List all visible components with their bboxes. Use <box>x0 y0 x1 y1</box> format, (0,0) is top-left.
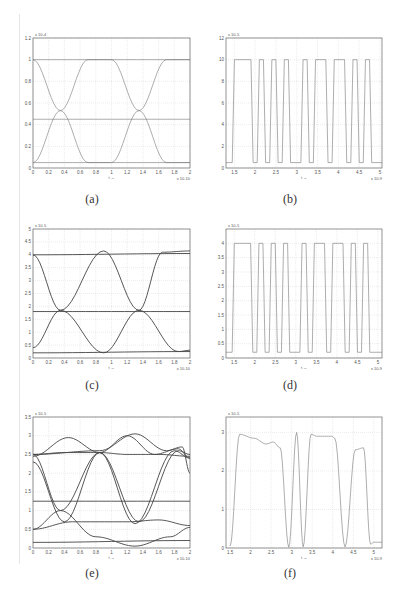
x-tick-label: 3.5 <box>309 550 316 555</box>
caption-f: (f) <box>270 566 310 581</box>
x-tick-label: 3 <box>290 550 293 555</box>
series-line-bit-stream <box>230 432 382 547</box>
chart-f-svg: 1.522.533.544.550123x 10-5x 10-9t → <box>0 0 404 594</box>
x-tick-label: 2.5 <box>268 550 275 555</box>
x-axis-label: t → <box>301 555 307 560</box>
y-tick-label: 3 <box>221 430 224 435</box>
y-tick-label: 1 <box>221 507 224 512</box>
y-tick-label: 2 <box>221 468 224 473</box>
x-tick-label: 4 <box>331 550 334 555</box>
x-tick-label: 1.5 <box>227 550 234 555</box>
y-exponent-label: x 10-5 <box>228 411 240 416</box>
y-tick-label: 0 <box>221 546 224 551</box>
series-group <box>230 432 382 547</box>
x-tick-label: 4.5 <box>350 550 357 555</box>
x-tick-label: 5 <box>373 550 376 555</box>
x-tick-label: 2 <box>249 550 252 555</box>
axes-frame <box>226 417 382 548</box>
x-exponent-label: x 10-9 <box>371 556 383 561</box>
